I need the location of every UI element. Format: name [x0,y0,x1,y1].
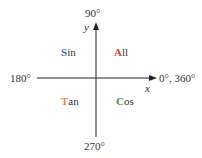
quadrant-cos-rest: os [124,95,134,107]
quadrant-cos: Cos [116,95,134,107]
y-axis-arrow-icon [93,22,99,30]
angle-label-0-360: 0°, 360° [159,72,195,84]
angle-label-90: 90° [85,7,100,19]
quadrant-sin: Sin [61,46,76,58]
quadrant-cos-first-letter: C [116,95,124,107]
x-axis-label: x [145,82,150,94]
quadrant-all-first-letter: A [114,46,122,58]
quadrant-tan: Tan [61,95,79,107]
x-axis-arrow-icon [149,75,157,81]
y-axis-label: y [84,21,89,33]
quadrant-tan-rest: an [68,95,78,107]
angle-label-180: 180° [10,72,31,84]
quadrant-sin-rest: in [67,46,76,58]
quadrant-all-rest: ll [122,46,128,58]
quadrant-all: All [114,46,128,58]
angle-label-270: 270° [84,140,105,152]
